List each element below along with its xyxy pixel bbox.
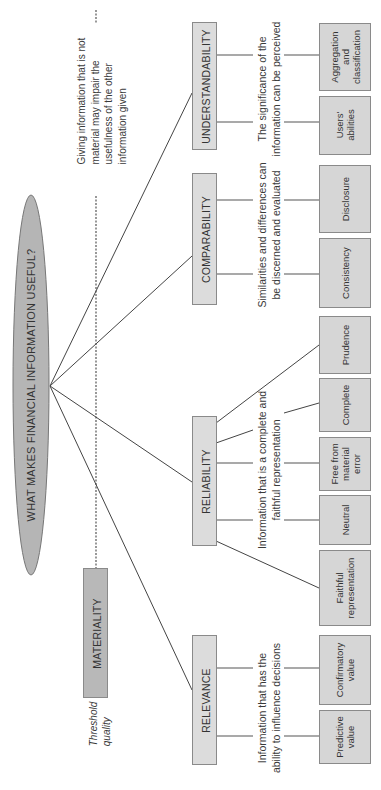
category-understandability: UNDERSTANDABILITY	[192, 22, 217, 150]
note-line-1: Giving information that is not	[75, 38, 89, 165]
leaf-line: value	[345, 716, 356, 758]
leaf-line: representation	[345, 558, 356, 619]
leaf-confirmatory-value: Confirmatory value	[319, 635, 371, 705]
threshold-caption: Threshold quality	[86, 696, 114, 752]
leaf-line: error	[351, 443, 362, 484]
leaf-line: Confirmatory	[334, 643, 345, 697]
leaf-line: classification	[351, 30, 362, 84]
description-line-2: be discerned and evaluated	[269, 162, 283, 307]
category-comparability: COMPARABILITY	[192, 173, 217, 305]
materiality-box: MATERIALITY	[83, 568, 108, 698]
note-line-2: material may impair the	[89, 38, 103, 165]
leaf-faithful-representation: Faithful representation	[319, 550, 371, 626]
description-relevance: Information that has the ability to infl…	[254, 628, 284, 788]
description-line-1: Information that has the	[255, 643, 269, 773]
leaf-line: abilities	[345, 109, 356, 141]
leaf-line: Complete	[340, 385, 351, 426]
category-relevance: RELEVANCE	[192, 635, 217, 765]
leaf-users-abilities: Users' abilities	[319, 96, 371, 155]
description-line-1: Information that is a complete and	[255, 391, 269, 549]
category-label: UNDERSTANDABILITY	[199, 29, 211, 144]
description-line-1: Similarities and differences can	[255, 162, 269, 307]
description-line-1: The significance of the	[255, 22, 269, 157]
leaf-line: Consistency	[340, 247, 351, 299]
note-line-4: information given	[116, 38, 130, 165]
description-reliability: Information that is a complete and faith…	[254, 370, 284, 570]
leaf-neutral: Neutral	[319, 495, 371, 545]
leaf-line: Predictive	[334, 716, 345, 758]
category-label: RELIABILITY	[199, 449, 211, 514]
category-label: RELEVANCE	[199, 668, 211, 733]
leaf-line: Disclosure	[340, 177, 351, 221]
leaf-prudence: Prudence	[319, 316, 371, 374]
leaf-line: Faithful	[334, 558, 345, 619]
materiality-note: Giving information that is not material …	[73, 11, 131, 191]
leaf-predictive-value: Predictive value	[319, 710, 371, 764]
note-line-3: usefulness of the other	[102, 38, 116, 165]
leaf-line: material	[340, 443, 351, 484]
leaf-line: Aggregation	[329, 30, 340, 84]
description-comparability: Similarities and differences can be disc…	[254, 145, 284, 325]
materiality-label: MATERIALITY	[90, 598, 102, 668]
leaf-consistency: Consistency	[319, 238, 371, 308]
diagram-title: WHAT MAKES FINANCIAL INFORMATION USEFUL?	[22, 195, 40, 575]
category-label: COMPARABILITY	[199, 196, 211, 283]
leaf-disclosure: Disclosure	[319, 165, 371, 233]
description-line-2: ability to influence decisions	[269, 643, 283, 773]
leaf-line: Free from	[329, 443, 340, 484]
category-reliability: RELIABILITY	[192, 416, 217, 546]
leaf-aggregation-classification: Aggregation and classification	[319, 23, 371, 91]
description-line-2: faithful representation	[269, 391, 283, 549]
leaf-line: Users'	[334, 109, 345, 141]
title-text: WHAT MAKES FINANCIAL INFORMATION USEFUL?	[25, 249, 37, 522]
leaf-free-from-material-error: Free from material error	[319, 437, 371, 491]
leaf-line: and	[340, 30, 351, 84]
leaf-line: value	[345, 643, 356, 697]
caption-line-2: quality	[100, 702, 113, 746]
leaf-complete: Complete	[319, 378, 371, 432]
description-line-2: information can be perceived	[269, 22, 283, 157]
caption-line-1: Threshold	[87, 702, 100, 746]
leaf-line: Prudence	[340, 325, 351, 366]
leaf-line: Neutral	[340, 505, 351, 536]
